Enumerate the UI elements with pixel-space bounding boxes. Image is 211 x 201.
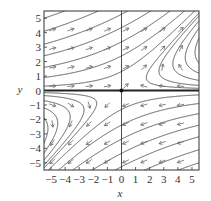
y-tick-label: 3 xyxy=(36,41,42,53)
arrow-icon xyxy=(123,160,129,163)
arrow-icon xyxy=(104,122,110,126)
arrow-icon xyxy=(141,160,147,163)
y-axis-label: y xyxy=(17,83,23,95)
trajectory xyxy=(199,94,211,95)
arrow-icon xyxy=(105,102,110,107)
arrow-icon xyxy=(159,141,166,144)
y-tick-label: −2 xyxy=(29,113,41,125)
arrow-icon xyxy=(49,84,56,88)
phase-portrait-chart: −5−4−3−2−1012345 −5−4−3−2−1012345 x y xyxy=(0,0,211,201)
arrow-icon xyxy=(104,141,110,145)
y-tick-label: −1 xyxy=(29,99,41,111)
x-tick-label: 1 xyxy=(133,173,139,185)
trajectory xyxy=(44,0,128,31)
arrow-icon xyxy=(104,84,111,88)
trajectory-curves xyxy=(30,0,211,184)
arrow-icon xyxy=(177,160,184,163)
arrow-icon xyxy=(159,84,166,88)
x-tick-label: 2 xyxy=(147,173,153,185)
trajectory xyxy=(199,63,211,71)
arrow-icon xyxy=(142,65,147,70)
x-tick-label: 4 xyxy=(175,173,181,185)
arrow-icon xyxy=(51,120,55,127)
arrow-icon xyxy=(177,141,184,144)
arrow-icon xyxy=(179,64,183,70)
trajectory xyxy=(199,122,211,125)
x-axis-label: x xyxy=(117,187,123,199)
arrow-icon xyxy=(104,160,110,164)
arrow-icon xyxy=(161,64,165,71)
trajectory xyxy=(44,0,188,67)
arrow-icon xyxy=(49,47,56,50)
y-tick-label: 5 xyxy=(36,12,42,24)
trajectory xyxy=(34,95,199,185)
x-tick-label: 5 xyxy=(189,173,195,185)
arrow-icon xyxy=(86,84,93,88)
x-tick-label: −2 xyxy=(87,173,99,185)
arrow-icon xyxy=(141,122,148,125)
arrow-icon xyxy=(104,47,110,50)
arrow-icon xyxy=(141,47,147,51)
trajectory xyxy=(199,158,211,162)
arrow-icon xyxy=(67,66,74,70)
arrow-icon xyxy=(123,28,129,31)
direction-arrows xyxy=(49,27,184,163)
arrow-icon xyxy=(141,103,148,106)
trajectory xyxy=(185,10,211,73)
arrow-icon xyxy=(159,103,166,107)
arrow-icon xyxy=(104,28,110,31)
y-tick-label: −3 xyxy=(29,128,41,140)
arrow-icon xyxy=(86,47,93,50)
trajectory xyxy=(199,111,211,113)
arrow-icon xyxy=(178,27,183,32)
arrow-icon xyxy=(87,121,92,126)
arrow-icon xyxy=(104,66,111,69)
arrow-icon xyxy=(67,47,74,50)
x-tick-label: 0 xyxy=(119,173,125,185)
trajectory xyxy=(44,0,99,18)
y-tick-label: −5 xyxy=(29,157,41,169)
trajectory xyxy=(199,73,211,77)
trajectory xyxy=(199,102,211,104)
x-tick-label: 3 xyxy=(161,173,167,185)
arrow-icon xyxy=(141,141,147,144)
trajectory xyxy=(199,85,211,86)
x-tick-label: −3 xyxy=(73,173,85,185)
x-tick-label: −1 xyxy=(102,173,114,185)
arrow-icon xyxy=(177,122,184,125)
trajectory xyxy=(44,0,152,44)
arrow-icon xyxy=(141,84,148,87)
x-tick-label: −5 xyxy=(45,173,57,185)
y-tick-label: 2 xyxy=(36,56,42,68)
trajectory xyxy=(146,0,211,88)
x-tick-label: −4 xyxy=(59,173,71,185)
y-tick-label: 0 xyxy=(36,85,42,97)
arrow-icon xyxy=(123,47,129,50)
y-tick-label: −4 xyxy=(29,142,41,154)
arrow-icon xyxy=(49,103,56,106)
arrow-icon xyxy=(67,28,74,31)
y-tick-label: 1 xyxy=(36,70,42,82)
arrow-icon xyxy=(88,102,91,109)
arrow-icon xyxy=(160,28,166,32)
trajectory xyxy=(44,0,201,77)
trajectory xyxy=(199,80,211,82)
arrow-icon xyxy=(68,103,74,107)
equilibrium-point xyxy=(120,89,124,93)
y-tick-label: 4 xyxy=(36,27,42,39)
arrow-icon xyxy=(123,84,128,89)
arrow-icon xyxy=(123,141,129,144)
trajectory xyxy=(199,146,211,150)
trajectory xyxy=(199,133,211,137)
